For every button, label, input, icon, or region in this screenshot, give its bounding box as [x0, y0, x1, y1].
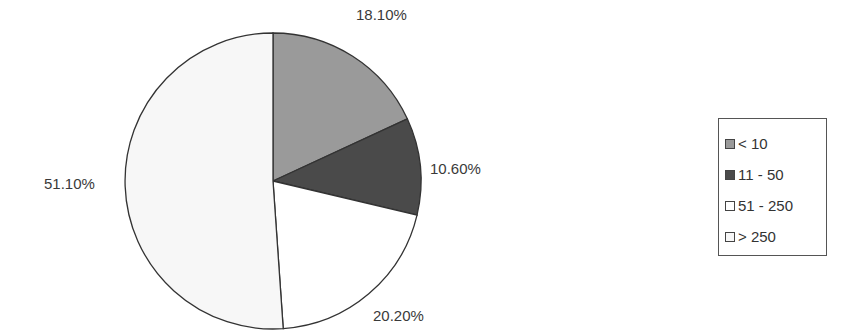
legend-swatch-icon: [725, 232, 735, 242]
slice-label-gt250: 51.10%: [44, 175, 95, 192]
legend-item-11-50: 11 - 50: [725, 159, 826, 190]
legend-label: < 10: [738, 135, 768, 152]
legend-item-51-250: 51 - 250: [725, 190, 826, 221]
legend-label: 51 - 250: [738, 197, 793, 214]
slice-label-11-50: 10.60%: [430, 160, 481, 177]
slice-gt250: [125, 33, 283, 329]
slice-label-51-250: 20.20%: [373, 307, 424, 324]
legend-swatch-icon: [725, 170, 735, 180]
legend-swatch-icon: [725, 201, 735, 211]
legend-item-lt10: < 10: [725, 128, 826, 159]
legend-item-gt250: > 250: [725, 221, 826, 252]
slice-label-lt10: 18.10%: [356, 6, 407, 23]
legend: < 10 11 - 50 51 - 250 > 250: [718, 118, 827, 256]
legend-swatch-icon: [725, 139, 735, 149]
legend-label: 11 - 50: [738, 166, 784, 183]
legend-label: > 250: [738, 228, 776, 245]
